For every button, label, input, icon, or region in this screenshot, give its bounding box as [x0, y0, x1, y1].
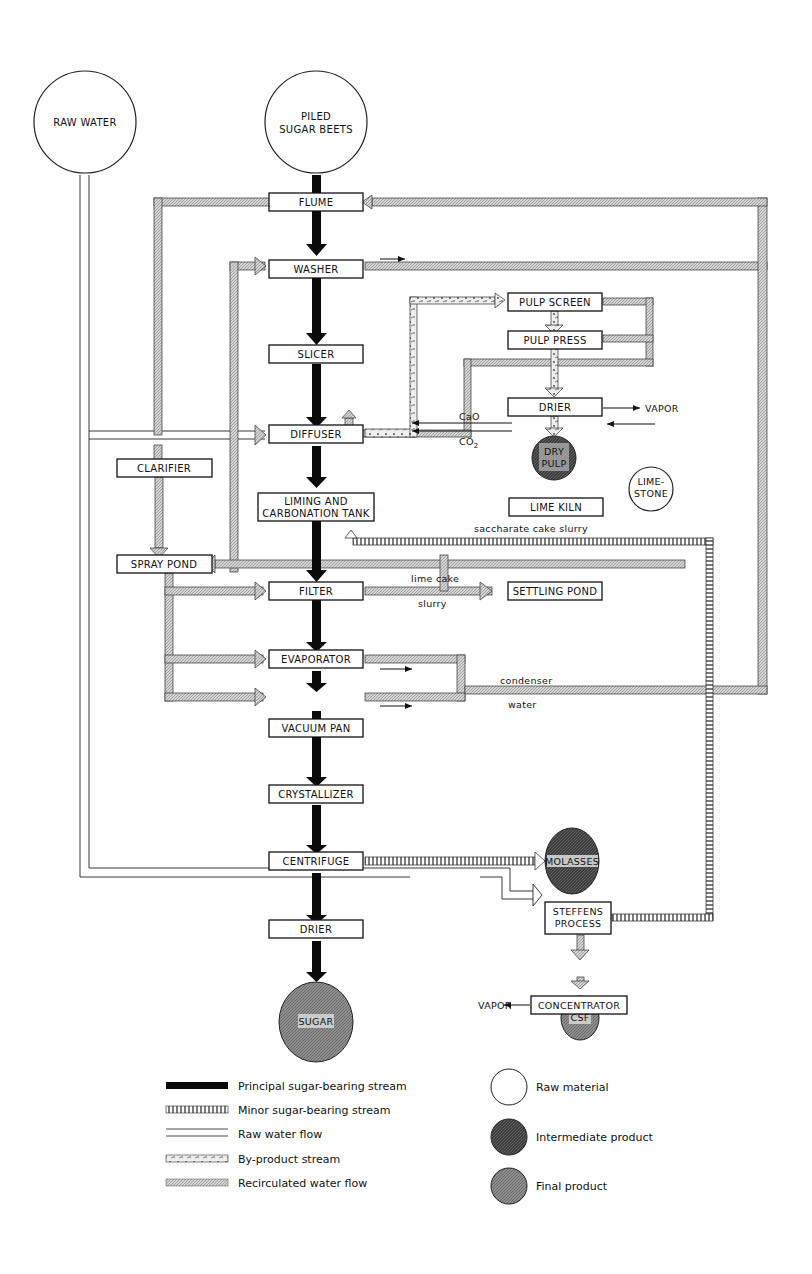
svg-text:PULP: PULP — [542, 458, 567, 469]
svg-text:LIME KILN: LIME KILN — [530, 502, 582, 513]
svg-text:DRY: DRY — [544, 446, 564, 457]
svg-text:CRYSTALLIZER: CRYSTALLIZER — [278, 789, 354, 800]
svg-text:STEFFENS: STEFFENS — [553, 906, 603, 917]
unit-pulp-screen: PULP SCREEN — [508, 293, 602, 311]
svg-text:Minor sugar-bearing stream: Minor sugar-bearing stream — [238, 1104, 391, 1117]
unit-washer: WASHER — [269, 260, 363, 278]
legend-raw-water: Raw water flow — [166, 1128, 322, 1141]
svg-text:By-product stream: By-product stream — [238, 1153, 340, 1166]
svg-text:STONE: STONE — [634, 488, 668, 499]
thin-flow-arrows — [380, 259, 655, 1005]
dry-pulp-product: DRY PULP — [532, 436, 576, 480]
raw-water-arrowhead — [533, 884, 542, 906]
sugar-product: SUGAR — [279, 982, 353, 1062]
legend-recirculated: Recirculated water flow — [166, 1177, 367, 1190]
unit-settling-pond: SETTLING POND — [508, 582, 602, 600]
svg-text:SUGAR BEETS: SUGAR BEETS — [279, 124, 353, 135]
svg-text:Final product: Final product — [536, 1180, 608, 1193]
legend-principal: Principal sugar-bearing stream — [166, 1080, 407, 1093]
svg-text:RAW WATER: RAW WATER — [53, 117, 116, 128]
svg-text:CaO: CaO — [459, 411, 480, 422]
svg-text:VAPOR: VAPOR — [478, 1000, 512, 1011]
sugar-beets-source: PILED SUGAR BEETS — [265, 71, 367, 173]
unit-clarifier: CLARIFIER — [117, 459, 212, 477]
svg-text:Raw water flow: Raw water flow — [238, 1128, 322, 1141]
raw-water-source: RAW WATER — [34, 71, 136, 173]
svg-text:Intermediate product: Intermediate product — [536, 1131, 653, 1144]
unit-evaporator: EVAPORATOR — [269, 650, 363, 668]
svg-text:Principal sugar-bearing stream: Principal sugar-bearing stream — [238, 1080, 407, 1093]
svg-text:PROCESS: PROCESS — [555, 918, 602, 929]
svg-text:Raw material: Raw material — [536, 1081, 609, 1094]
unit-centrifuge: CENTRIFUGE — [269, 852, 363, 870]
svg-text:CO2: CO2 — [459, 436, 478, 450]
svg-text:VAPOR: VAPOR — [645, 403, 679, 414]
limestone-source: LIME- STONE — [629, 467, 673, 511]
svg-text:CARBONATION TANK: CARBONATION TANK — [262, 508, 370, 519]
unit-crystallizer: CRYSTALLIZER — [269, 785, 363, 803]
svg-text:VACUUM PAN: VACUUM PAN — [281, 723, 350, 734]
unit-liming-carbonation-tank: LIMING ANDCARBONATION TANK — [258, 493, 374, 521]
svg-text:CLARIFIER: CLARIFIER — [137, 463, 191, 474]
svg-text:SUGAR: SUGAR — [299, 1016, 334, 1027]
svg-text:DRIER: DRIER — [300, 924, 332, 935]
svg-text:LIME-: LIME- — [637, 476, 664, 487]
svg-text:condenser: condenser — [500, 675, 552, 686]
unit-concentrator: CONCENTRATOR — [531, 996, 627, 1014]
unit-slicer: SLICER — [269, 345, 363, 363]
sugar-beet-process-flow-diagram: RAW WATER PILED SUGAR BEETS LIME- STONE … — [0, 0, 812, 1274]
unit-lime-kiln: LIME KILN — [509, 498, 603, 516]
svg-text:PULP SCREEN: PULP SCREEN — [519, 297, 591, 308]
svg-text:saccharate cake slurry: saccharate cake slurry — [474, 523, 588, 534]
svg-text:FILTER: FILTER — [299, 586, 333, 597]
legend-by-product: By-product stream — [166, 1153, 340, 1166]
svg-text:DIFFUSER: DIFFUSER — [290, 429, 342, 440]
svg-text:FLUME: FLUME — [299, 197, 334, 208]
svg-text:slurry: slurry — [418, 598, 447, 609]
legend-minor: Minor sugar-bearing stream — [166, 1104, 391, 1117]
svg-text:PULP PRESS: PULP PRESS — [523, 335, 586, 346]
unit-steffens-process: STEFFENSPROCESS — [545, 902, 611, 934]
svg-text:water: water — [508, 699, 537, 710]
svg-text:MOLASSES: MOLASSES — [545, 856, 599, 867]
svg-text:PILED: PILED — [301, 111, 331, 122]
svg-text:SPRAY POND: SPRAY POND — [131, 559, 197, 570]
unit-spray-pond: SPRAY POND — [117, 555, 212, 573]
svg-text:SETTLING POND: SETTLING POND — [513, 586, 598, 597]
svg-text:lime cake: lime cake — [411, 573, 459, 584]
svg-text:EVAPORATOR: EVAPORATOR — [281, 654, 351, 665]
molasses-product: MOLASSES — [545, 828, 599, 894]
unit-diffuser: DIFFUSER — [269, 425, 363, 443]
legend-intermediate: Intermediate product — [491, 1119, 653, 1155]
unit-filter: FILTER — [269, 582, 363, 600]
unit-pulp-press: PULP PRESS — [508, 331, 602, 349]
svg-text:Recirculated water flow: Recirculated water flow — [238, 1177, 367, 1190]
unit-vacuum-pan: VACUUM PAN — [269, 719, 363, 737]
recirculated-water-flow — [154, 198, 767, 701]
svg-text:SLICER: SLICER — [298, 349, 335, 360]
svg-text:CONCENTRATOR: CONCENTRATOR — [538, 1000, 620, 1011]
svg-text:WASHER: WASHER — [293, 264, 338, 275]
svg-text:CENTRIFUGE: CENTRIFUGE — [283, 856, 350, 867]
svg-text:LIMING AND: LIMING AND — [284, 496, 348, 507]
unit-flume: FLUME — [269, 193, 363, 211]
legend-final: Final product — [491, 1168, 608, 1204]
unit-drier-pulp: DRIER — [508, 398, 602, 416]
unit-drier-main: DRIER — [269, 920, 363, 938]
svg-text:DRIER: DRIER — [539, 402, 571, 413]
legend: Principal sugar-bearing stream Minor sug… — [166, 1069, 653, 1204]
legend-raw-material: Raw material — [491, 1069, 609, 1105]
